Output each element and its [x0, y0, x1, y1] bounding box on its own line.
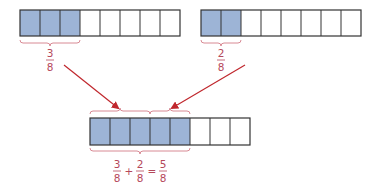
arrow-right-icon — [172, 65, 245, 108]
fraction-two-eighths: 2 8 — [217, 47, 225, 73]
numerator-b: 2 — [137, 158, 144, 170]
fraction-three-eighths: 3 8 — [46, 47, 54, 73]
bar-five-eighths — [90, 118, 250, 145]
arrow-left-icon — [64, 65, 118, 108]
numerator: 2 — [218, 47, 225, 59]
denominator-c: 8 — [160, 172, 167, 184]
sum-equation: 3 8 + 2 8 = 5 8 — [113, 158, 167, 184]
brace-three-eighths — [20, 40, 80, 46]
denominator: 8 — [47, 61, 54, 73]
numerator-a: 3 — [114, 158, 121, 170]
denominator-b: 8 — [137, 172, 144, 184]
equals-sign: = — [148, 165, 157, 177]
brace-top-three — [90, 108, 150, 114]
brace-top-two — [150, 108, 190, 114]
numerator-c: 5 — [160, 158, 167, 170]
plus-sign: + — [125, 165, 134, 177]
numerator: 3 — [47, 47, 54, 59]
brace-five-eighths — [90, 148, 190, 154]
bar-three-eighths — [20, 10, 180, 36]
fraction-addition-diagram: 3 8 2 8 3 8 + 2 8 = 5 8 — [0, 0, 372, 195]
brace-two-eighths — [201, 40, 241, 46]
denominator-a: 8 — [114, 172, 121, 184]
denominator: 8 — [218, 61, 225, 73]
bar-two-eighths — [201, 10, 361, 36]
